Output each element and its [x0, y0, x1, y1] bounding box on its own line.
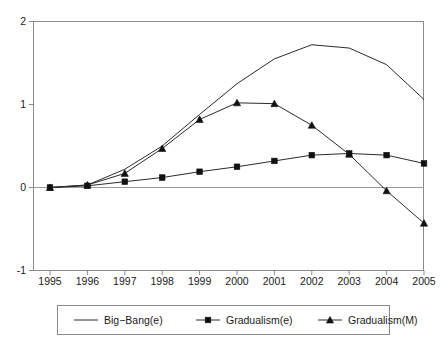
x-tick-label: 2002 [300, 275, 324, 287]
chart-legend: Big−Bang(e)Gradualism(e)Gradualism(M) [58, 306, 418, 335]
legend-label: Big−Bang(e) [104, 314, 163, 326]
series-line [50, 103, 424, 223]
legend-items: Big−Bang(e)Gradualism(e)Gradualism(M) [74, 314, 417, 326]
data-point-marker [272, 158, 278, 164]
chart-figure: 2 1 0 -1 1995199619971998199920002001200… [0, 0, 444, 346]
data-point-marker [159, 145, 166, 152]
y-axis-ticks [29, 22, 34, 271]
plot-frame [34, 22, 424, 271]
data-series-layer [46, 45, 427, 226]
x-tick-label: 2001 [263, 275, 287, 287]
data-point-marker [122, 179, 128, 185]
legend-item[interactable]: Big−Bang(e) [74, 314, 163, 326]
legend-item[interactable]: Gradualism(M) [318, 314, 417, 326]
data-point-marker [205, 317, 211, 323]
y-axis-tick-labels: 2 1 0 -1 [17, 15, 27, 276]
x-tick-label: 2000 [225, 275, 249, 287]
y-tick-label: 0 [20, 181, 26, 193]
data-point-marker [234, 164, 240, 170]
x-tick-label: 2003 [338, 275, 362, 287]
legend-label: Gradualism(e) [226, 314, 293, 326]
data-point-marker [309, 152, 315, 158]
legend-item[interactable]: Gradualism(e) [196, 314, 293, 326]
series-triangle [46, 99, 427, 226]
x-axis-tick-labels: 1995199619971998199920002001200220032004… [38, 275, 436, 287]
x-tick-label: 2004 [375, 275, 399, 287]
x-tick-label: 1996 [76, 275, 100, 287]
y-tick-label: -1 [17, 264, 26, 276]
y-tick-label: 1 [20, 98, 26, 110]
data-point-marker [421, 161, 427, 167]
x-tick-label: 1997 [113, 275, 137, 287]
x-tick-label: 1999 [188, 275, 212, 287]
data-point-marker [159, 175, 165, 181]
series-line [50, 153, 424, 187]
x-tick-label: 1998 [151, 275, 175, 287]
x-tick-label: 1995 [38, 275, 62, 287]
line-chart: 2 1 0 -1 1995199619971998199920002001200… [0, 0, 444, 346]
data-point-marker [384, 152, 390, 158]
y-tick-label: 2 [20, 15, 26, 27]
series-square [47, 151, 427, 191]
data-point-marker [197, 169, 203, 175]
data-point-marker [308, 122, 315, 129]
legend-label: Gradualism(M) [348, 314, 417, 326]
x-tick-label: 2005 [412, 275, 436, 287]
